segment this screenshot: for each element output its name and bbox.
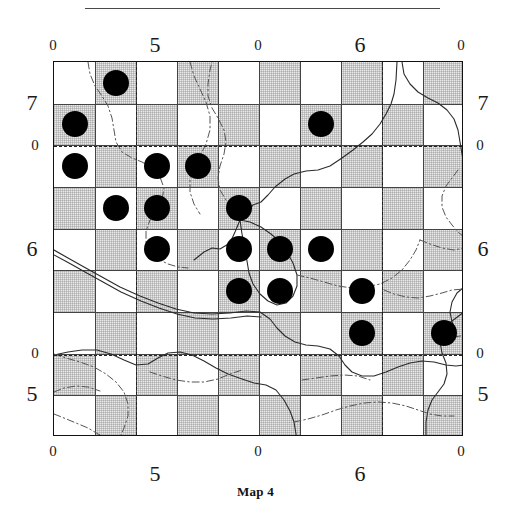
axis-tick-label: 0 [254, 38, 262, 53]
axis-tick-label: 7 [478, 92, 489, 114]
occurrence-dot[interactable] [349, 278, 375, 304]
occurrence-dot[interactable] [103, 70, 129, 96]
axis-tick-label: 6 [355, 463, 366, 485]
occurrence-dot[interactable] [62, 111, 88, 137]
occurrence-dot[interactable] [349, 320, 375, 346]
axis-tick-label: 0 [476, 346, 484, 361]
occurrence-dot[interactable] [62, 153, 88, 179]
occurrence-dot[interactable] [267, 236, 293, 262]
axis-tick-label: 6 [478, 238, 489, 260]
occurrence-dot[interactable] [144, 236, 170, 262]
axis-tick-label: 0 [457, 38, 465, 53]
geography-overlay [54, 62, 463, 436]
reference-line-horizontal [54, 355, 462, 356]
axis-tick-label: 0 [31, 138, 39, 153]
figure-caption: Map 4 [0, 484, 511, 500]
axis-tick-label: 0 [49, 38, 57, 53]
occurrence-dot[interactable] [226, 278, 252, 304]
axis-tick-label: 6 [27, 238, 38, 260]
occurrence-dot[interactable] [144, 195, 170, 221]
occurrence-dot[interactable] [267, 278, 293, 304]
reference-line-vertical [136, 62, 137, 435]
axis-tick-label: 0 [254, 444, 262, 459]
axis-tick-label: 0 [31, 346, 39, 361]
axis-tick-label: 5 [27, 383, 38, 405]
occurrence-dot[interactable] [144, 153, 170, 179]
reference-line-horizontal [54, 146, 462, 147]
occurrence-dot[interactable] [226, 236, 252, 262]
occurrence-dot[interactable] [308, 111, 334, 137]
title-rule [85, 8, 440, 9]
distribution-map[interactable] [53, 61, 463, 436]
axis-tick-label: 0 [457, 444, 465, 459]
occurrence-dot[interactable] [431, 320, 457, 346]
axis-tick-label: 5 [478, 383, 489, 405]
axis-tick-label: 5 [150, 463, 161, 485]
occurrence-dot[interactable] [103, 195, 129, 221]
axis-tick-label: 7 [27, 92, 38, 114]
axis-tick-label: 6 [355, 34, 366, 56]
occurrence-dot[interactable] [226, 195, 252, 221]
axis-tick-label: 5 [150, 34, 161, 56]
occurrence-dot[interactable] [308, 236, 334, 262]
occurrence-dot[interactable] [185, 153, 211, 179]
axis-tick-label: 0 [49, 444, 57, 459]
axis-tick-label: 0 [476, 138, 484, 153]
reference-line-vertical [382, 62, 383, 435]
